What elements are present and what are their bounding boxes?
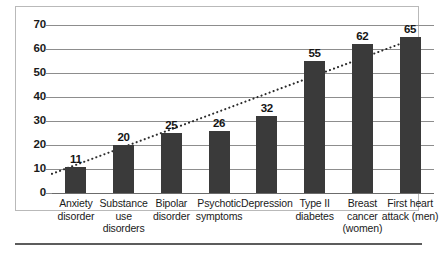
y-axis-label-60: 60 — [34, 43, 46, 55]
y-tick-10 — [46, 169, 52, 170]
y-axis-label-10: 10 — [34, 163, 46, 175]
x-axis-label-line: symptoms — [190, 210, 248, 223]
bar-value-label: 62 — [341, 31, 383, 43]
bar — [400, 37, 421, 193]
bottom-divider — [15, 243, 422, 245]
x-axis-label-line: disorders — [95, 222, 153, 235]
bar — [65, 167, 86, 193]
y-axis-label-50: 50 — [34, 67, 46, 79]
bar-value-label: 26 — [198, 118, 240, 130]
chart-figure: 010203040506070 1120252632556265 Anxiety… — [0, 0, 439, 256]
y-tick-30 — [46, 121, 52, 122]
bar — [352, 44, 373, 193]
plot-area: 1120252632556265 — [52, 25, 434, 193]
y-tick-0 — [46, 193, 52, 194]
x-axis-label: First heartattack (men) — [381, 197, 439, 222]
gridline-0 — [52, 193, 434, 194]
bar-value-label: 65 — [389, 24, 431, 36]
y-tick-70 — [46, 25, 52, 26]
y-tick-20 — [46, 145, 52, 146]
y-axis-label-30: 30 — [34, 115, 46, 127]
x-axis-label-line: (women) — [333, 222, 391, 235]
bar-value-label: 55 — [294, 48, 336, 60]
bar — [256, 116, 277, 193]
y-axis-labels: 010203040506070 — [30, 25, 46, 193]
bar — [161, 133, 182, 193]
bar-value-label: 11 — [55, 154, 97, 166]
y-tick-40 — [46, 97, 52, 98]
bar-value-label: 25 — [150, 120, 192, 132]
y-tick-50 — [46, 73, 52, 74]
y-axis-label-20: 20 — [34, 139, 46, 151]
chart-frame: 010203040506070 1120252632556265 Anxiety… — [15, 6, 419, 211]
bar — [304, 61, 325, 193]
y-axis-label-70: 70 — [34, 19, 46, 31]
trend-line — [52, 25, 434, 193]
y-axis-label-40: 40 — [34, 91, 46, 103]
x-axis-category-labels: AnxietydisorderSubstanceusedisordersBipo… — [52, 197, 434, 256]
bar — [209, 131, 230, 193]
bar-value-label: 32 — [246, 103, 288, 115]
bar-value-label: 20 — [103, 132, 145, 144]
bar — [113, 145, 134, 193]
x-axis-label-line: attack (men) — [381, 210, 439, 223]
x-axis-label-line: First heart — [381, 197, 439, 210]
y-tick-60 — [46, 49, 52, 50]
